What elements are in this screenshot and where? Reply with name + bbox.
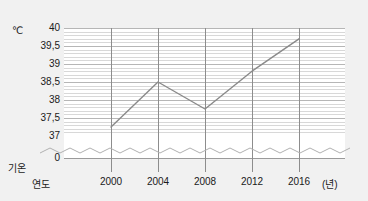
- x-tick-label-2016: 2016: [276, 176, 322, 187]
- y-tick-label-37,5: 37,5: [26, 113, 60, 123]
- x-tick-mark-2008: [205, 158, 206, 172]
- x-tick-mark-2004: [158, 158, 159, 172]
- x-tick-label-2004: 2004: [135, 176, 181, 187]
- y-axis-title: 기온: [8, 160, 26, 175]
- y-tick-label-39,5: 39,5: [26, 41, 60, 51]
- axis-break-icon: [40, 146, 350, 156]
- vertical-gridline-2016: [299, 28, 300, 136]
- temperature-line-chart: 4039,53938,53837,5370 200020042008201220…: [0, 0, 368, 201]
- y-tick-label-40: 40: [26, 23, 60, 33]
- x-axis-unit: (년): [322, 176, 362, 191]
- x-axis-title: 연도: [32, 176, 50, 191]
- x-tick-label-2008: 2008: [182, 176, 228, 187]
- y-tick-label-38: 38: [26, 95, 60, 105]
- x-tick-label-2000: 2000: [88, 176, 134, 187]
- vertical-gridline-2008: [205, 28, 206, 136]
- x-tick-mark-2016: [299, 158, 300, 172]
- y-axis-unit: ℃: [12, 25, 23, 36]
- x-tick-mark-2000: [111, 158, 112, 172]
- vertical-gridline-2000: [111, 28, 112, 136]
- vertical-gridline-2012: [252, 28, 253, 136]
- y-tick-label-37: 37: [26, 131, 60, 141]
- y-tick-label-38,5: 38,5: [26, 77, 60, 87]
- vertical-gridline-2004: [158, 28, 159, 136]
- y-axis-labels: 4039,53938,53837,5370: [22, 0, 60, 201]
- y-tick-label-39: 39: [26, 59, 60, 69]
- x-tick-mark-2012: [252, 158, 253, 172]
- plot-area: [64, 28, 345, 136]
- x-tick-label-2012: 2012: [229, 176, 275, 187]
